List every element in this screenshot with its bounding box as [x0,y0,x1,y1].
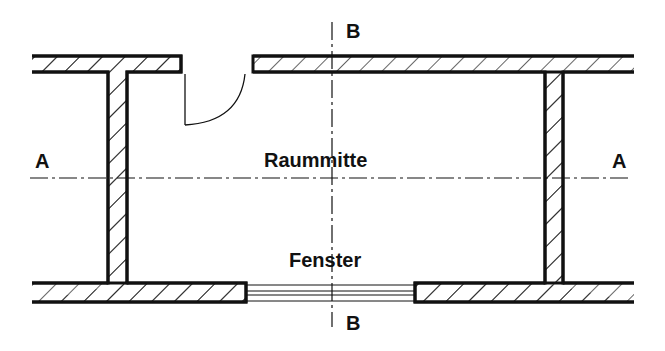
room-center-label: Raummitte [264,150,367,170]
section-label-a-right: A [612,151,626,171]
window [246,285,415,301]
section-label-b-top: B [346,21,360,41]
section-label-a-left: A [35,151,49,171]
window-label: Fenster [289,250,361,270]
floor-plan [0,0,665,351]
door [185,74,245,125]
section-label-b-bottom: B [346,313,360,333]
